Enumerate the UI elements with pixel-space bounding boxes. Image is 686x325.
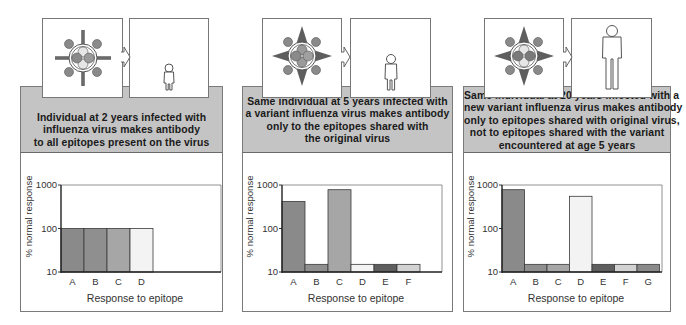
x-tick-label: D (577, 276, 584, 287)
bar-A (502, 190, 525, 272)
bar-D (570, 196, 593, 272)
x-tick-label: G (645, 276, 652, 287)
y-tick-label: 100 (482, 223, 498, 234)
x-axis-label: Response to epitope (528, 292, 624, 304)
bar-G (637, 264, 660, 272)
x-tick-label: B (533, 276, 539, 287)
bar-C (547, 264, 570, 272)
bar-B (525, 264, 548, 272)
y-tick-label: 10 (487, 266, 498, 277)
y-axis-label: % normal response (465, 176, 476, 258)
bar-E (592, 264, 615, 272)
bar-F (615, 264, 638, 272)
x-tick-label: A (510, 276, 517, 287)
chart-age-20: ABCDEFG101001000Response to epitope% nor… (0, 0, 686, 325)
x-tick-label: C (555, 276, 562, 287)
y-tick-label: 1000 (477, 179, 498, 190)
x-tick-label: E (600, 276, 606, 287)
x-tick-label: F (623, 276, 629, 287)
